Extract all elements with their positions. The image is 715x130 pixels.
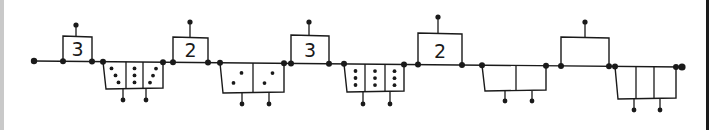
- junction-dot: [459, 62, 465, 68]
- dice-pip: [393, 69, 397, 73]
- upper-pin-dot: [306, 19, 311, 24]
- dice-pip: [110, 66, 114, 70]
- junction-dot: [606, 63, 612, 69]
- dice-pip: [148, 81, 152, 85]
- dice-pip: [133, 74, 137, 78]
- dice-pip: [373, 83, 377, 87]
- box-number-label: 3: [71, 38, 83, 60]
- box-number-label: 2: [184, 39, 196, 61]
- junction-dot: [288, 60, 294, 66]
- junction-dot: [89, 59, 95, 65]
- dice-pip: [151, 74, 155, 78]
- dice-pip: [354, 69, 358, 73]
- lower-pin-dot: [144, 98, 149, 103]
- junction-dot: [341, 61, 347, 67]
- dice-pip: [117, 80, 121, 84]
- junction-dot: [326, 61, 332, 67]
- lower-box-5: [615, 66, 676, 99]
- junction-dot: [100, 59, 106, 65]
- junction-dot: [401, 61, 407, 67]
- junction-dot: [558, 63, 564, 69]
- start-node-dot: [31, 58, 37, 64]
- dice-pip: [354, 83, 358, 87]
- lower-pin-dot: [632, 108, 637, 113]
- upper-pin-dot: [187, 19, 192, 24]
- lower-pin-dot: [240, 102, 245, 107]
- dice-pip: [373, 69, 377, 73]
- lower-pin-dot: [658, 108, 663, 113]
- dice-pip: [114, 73, 118, 77]
- lower-pin-dot: [267, 102, 272, 107]
- upper-box-5: [561, 37, 609, 66]
- lower-box-2: [220, 63, 284, 93]
- left-border: [0, 0, 4, 130]
- box-number-label: 2: [434, 40, 446, 62]
- junction-dot: [479, 62, 485, 68]
- lower-pin-dot: [361, 102, 366, 107]
- dice-pip: [393, 83, 397, 87]
- end-node-dot: [678, 63, 685, 70]
- lower-box-4: [482, 65, 546, 91]
- upper-pin-dot: [582, 19, 587, 24]
- dice-pip: [240, 71, 244, 75]
- upper-pin-dot: [435, 14, 440, 19]
- junction-dot: [415, 62, 421, 68]
- junction-dot: [217, 60, 223, 66]
- right-border: [706, 0, 709, 130]
- diagram-canvas: 3232: [0, 0, 715, 130]
- lower-pin-dot: [530, 99, 535, 104]
- box-number-label: 3: [304, 39, 316, 61]
- main-line: [34, 61, 682, 67]
- dice-pip: [133, 81, 137, 85]
- upper-pin-dot: [73, 22, 78, 27]
- junction-dot: [281, 60, 287, 66]
- junction-dot: [160, 59, 166, 65]
- dice-pip: [271, 71, 275, 75]
- junction-dot: [170, 59, 176, 65]
- dice-pip: [393, 76, 397, 80]
- lower-pin-dot: [121, 98, 126, 103]
- junction-dot: [60, 58, 66, 64]
- junction-dot: [673, 64, 679, 70]
- dice-pip: [263, 81, 267, 85]
- lower-pin-dot: [388, 102, 393, 107]
- dice-pip: [373, 76, 377, 80]
- dice-pip: [154, 67, 158, 71]
- diagram-svg: 3232: [0, 0, 715, 130]
- junction-dot: [543, 63, 549, 69]
- junction-dot: [205, 60, 211, 66]
- dice-pip: [133, 67, 137, 71]
- dice-pip: [354, 76, 358, 80]
- lower-pin-dot: [503, 99, 508, 104]
- junction-dot: [612, 63, 618, 69]
- dice-pip: [232, 81, 236, 85]
